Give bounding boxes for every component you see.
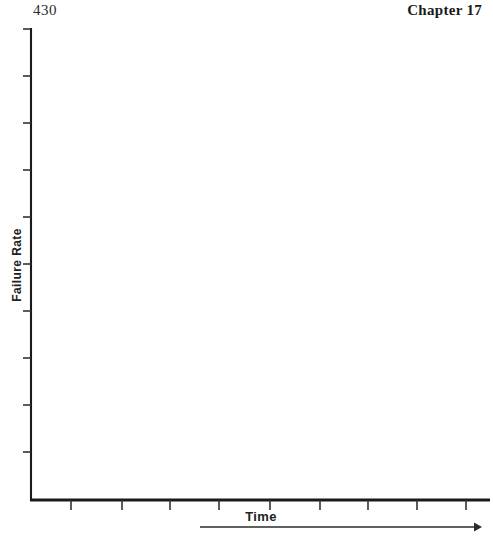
y-axis-ticks [23, 29, 31, 452]
time-direction-arrow [200, 523, 482, 532]
chart-axes-svg [0, 0, 493, 537]
y-axis-label: Failure Rate [10, 228, 24, 302]
time-arrow-head-icon [474, 523, 482, 532]
x-axis-label: Time [245, 509, 277, 524]
failure-rate-vs-time-chart: Failure Rate Time [0, 0, 493, 537]
